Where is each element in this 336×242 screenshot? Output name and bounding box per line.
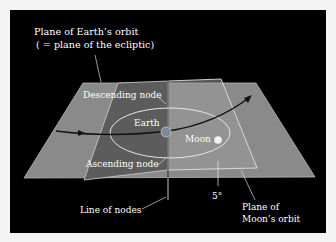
earth-icon — [161, 127, 171, 137]
earth-label: Earth — [134, 118, 160, 128]
descending-node-label: Descending node — [83, 90, 162, 100]
angle-label: 5° — [212, 191, 222, 201]
line-of-nodes-label: Line of nodes — [80, 205, 142, 215]
moon-plane-label-line2: Moon’s orbit — [242, 214, 301, 224]
ascending-node-label: Ascending node — [85, 159, 159, 169]
moon-plane-label-line1: Plane of — [242, 202, 280, 212]
ecliptic-label-line2: ( = plane of the ecliptic) — [36, 39, 154, 50]
moon-icon — [214, 136, 222, 144]
orbital-planes-diagram: Plane of Earth’s orbit ( = plane of the … — [0, 0, 336, 242]
moon-label: Moon — [185, 134, 211, 144]
ecliptic-label-line1: Plane of Earth’s orbit — [34, 26, 138, 37]
